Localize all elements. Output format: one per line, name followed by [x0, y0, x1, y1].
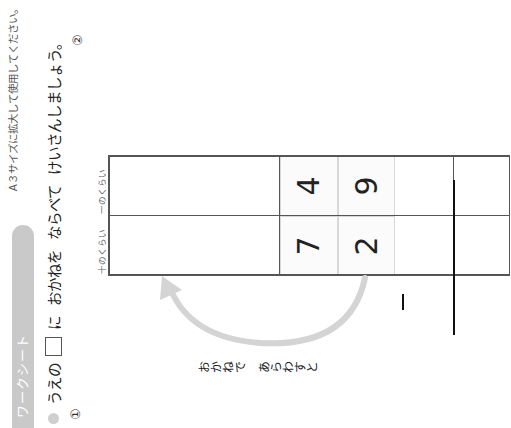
problem-number-2: ② — [70, 34, 85, 46]
arrow-caption: おかねで あらわすと — [198, 359, 318, 376]
bullet-dot-icon — [48, 413, 59, 424]
ones-column-label: 一のくらい — [95, 169, 107, 214]
badge-label: ワークシート — [15, 334, 30, 418]
digit-r2-ones: 9 — [338, 156, 396, 216]
instruction-word3: けいさんしましょう。 — [43, 36, 64, 175]
worksheet-page: ワークシート A３サイズに拡大して使用してください。 うえの に おかねを なら… — [0, 0, 511, 428]
digit-r1-ones: 4 — [280, 156, 338, 216]
instruction-prefix: うえの — [43, 363, 64, 405]
place-value-table: 十のくらい 一のくらい 7 4 2 9 — [108, 156, 510, 276]
minus-sign — [402, 294, 404, 310]
instruction-word2: ならべて — [43, 185, 64, 240]
answer-line — [453, 180, 455, 335]
tens-column-label: 十のくらい — [95, 229, 107, 274]
print-note: A３サイズに拡大して使用してください。 — [5, 4, 20, 191]
blank-box-icon — [45, 337, 62, 356]
digit-r2-tens: 2 — [338, 216, 396, 276]
curved-arrow-icon — [150, 273, 380, 368]
digit-r1-tens: 7 — [280, 216, 338, 276]
instruction-particle: に — [43, 316, 64, 330]
instruction: うえの に おかねを ならべて けいさんしましょう。 — [43, 36, 64, 424]
instruction-word1: おかねを — [43, 250, 64, 306]
problem-number-1: ① — [68, 408, 83, 420]
worksheet-badge: ワークシート — [12, 225, 34, 428]
